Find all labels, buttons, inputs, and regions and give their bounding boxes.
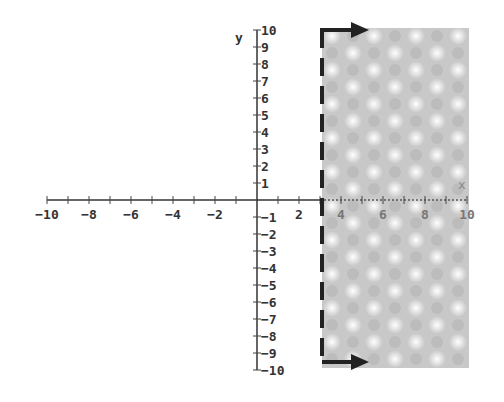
x-tick-label: −4: [165, 207, 181, 222]
inequality-plot: −10−8−6−4−2246810 10987654321−1−2−3−4−5−…: [0, 0, 504, 402]
y-tick-label: 4: [261, 125, 269, 140]
y-tick-label: −5: [261, 278, 277, 293]
y-tick-label: −6: [261, 295, 277, 310]
y-tick-label: 6: [261, 91, 269, 106]
x-tick-label: −10: [35, 207, 59, 222]
x-tick-label: 10: [459, 207, 475, 222]
y-tick-label: −10: [261, 363, 285, 378]
y-tick-label: 10: [261, 23, 277, 38]
y-tick-label: −8: [261, 329, 277, 344]
x-axis-label: x: [458, 177, 466, 192]
x-tick-label: 2: [295, 207, 303, 222]
y-tick-label: −3: [261, 244, 277, 259]
y-tick-label: −7: [261, 312, 277, 327]
x-tick-label: −6: [123, 207, 139, 222]
y-tick-label: −2: [261, 227, 277, 242]
y-tick-label: 5: [261, 108, 269, 123]
x-tick-label: −2: [207, 207, 223, 222]
shaded-region: [322, 28, 469, 368]
x-tick-label: −8: [81, 207, 97, 222]
y-tick-label: 8: [261, 57, 269, 72]
y-tick-label: −4: [261, 261, 277, 276]
x-tick-label: 8: [421, 207, 429, 222]
y-tick-label: 3: [261, 142, 269, 157]
y-tick-label: −9: [261, 346, 277, 361]
y-tick-label: 1: [261, 176, 269, 191]
y-axis-label: y: [235, 30, 243, 45]
y-tick-label: 2: [261, 159, 269, 174]
y-tick-label: −1: [261, 210, 277, 225]
y-tick-label: 9: [261, 40, 269, 55]
x-tick-label: 6: [379, 207, 387, 222]
y-tick-label: 7: [261, 74, 269, 89]
x-tick-label: 4: [337, 207, 345, 222]
